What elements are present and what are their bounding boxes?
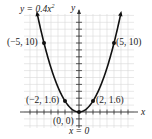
point-label-2-1.6: (2, 1.6) [96, 96, 124, 106]
data-point [91, 99, 95, 103]
y-axis-label: y [71, 4, 75, 14]
data-point [63, 99, 67, 103]
point-label-neg2-1.6: (−2, 1.6) [26, 96, 59, 106]
point-label-neg5-10: (−5, 10) [7, 38, 38, 48]
symmetry-label: x = 0 [69, 127, 89, 137]
point-label-5-10: (5, 10) [116, 38, 141, 48]
parabola-chart [0, 0, 152, 139]
data-point [42, 41, 46, 45]
y-axis-arrow-icon [77, 9, 81, 14]
equation-label: y = 0.4x2 [20, 3, 54, 15]
data-point [77, 110, 81, 114]
x-axis-label: x [141, 108, 145, 118]
curve-arrow-right-icon [118, 11, 122, 16]
